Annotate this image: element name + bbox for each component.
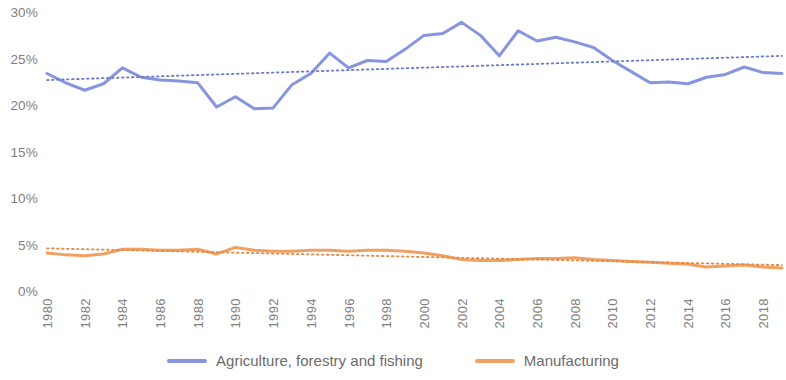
legend-item-manufacturing[interactable]: Manufacturing <box>475 352 619 369</box>
trendline-agriculture <box>47 56 782 80</box>
series-line-agriculture <box>47 22 782 108</box>
legend-swatch-manufacturing <box>475 359 515 363</box>
legend-label-agriculture: Agriculture, forestry and fishing <box>216 352 423 369</box>
chart-legend: Agriculture, forestry and fishing Manufa… <box>0 352 786 369</box>
legend-swatch-agriculture <box>167 359 207 363</box>
legend-item-agriculture[interactable]: Agriculture, forestry and fishing <box>167 352 423 369</box>
chart-container: 0%5%10%15%20%25%30% 19801982198419861988… <box>0 0 786 380</box>
chart-plot-area <box>0 0 786 380</box>
legend-label-manufacturing: Manufacturing <box>524 352 619 369</box>
trendline-layer <box>47 56 782 265</box>
